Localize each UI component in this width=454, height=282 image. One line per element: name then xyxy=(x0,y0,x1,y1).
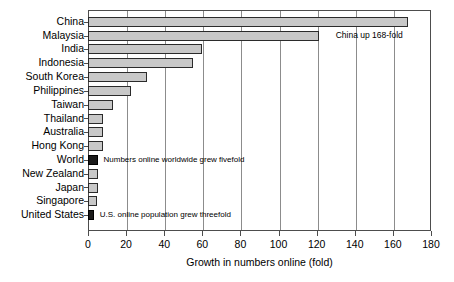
bar-row xyxy=(88,167,431,181)
category-axis-tick-label: Singapore xyxy=(0,194,84,208)
category-axis-tick-label: Indonesia xyxy=(0,56,84,70)
value-axis-tick-label: 0 xyxy=(85,237,91,251)
value-axis-tick-label: 80 xyxy=(235,237,247,251)
category-axis-tick-label: Thailand xyxy=(0,112,84,126)
value-axis-tick xyxy=(240,231,241,236)
category-axis-tick-label: South Korea xyxy=(0,70,84,84)
category-axis-tick-label: Japan xyxy=(0,181,84,195)
value-axis-tick xyxy=(126,231,127,236)
annotation-united-states: U.S. online population grew threefold xyxy=(100,210,231,220)
bar xyxy=(88,155,98,165)
value-axis-tick-label: 180 xyxy=(422,237,440,251)
bar xyxy=(88,31,319,41)
category-axis-tick-label: United States xyxy=(0,208,84,222)
value-axis-tick-label: 140 xyxy=(346,237,364,251)
category-axis-tick-label: World xyxy=(0,153,84,167)
bars-container xyxy=(88,10,431,231)
category-axis-tick-label: India xyxy=(0,42,84,56)
value-axis-tick xyxy=(202,231,203,236)
annotation-china: China up 168-fold xyxy=(336,30,403,40)
bar xyxy=(88,44,202,54)
bar-row xyxy=(88,42,431,56)
x-axis-title: Growth in numbers online (fold) xyxy=(88,255,431,269)
bar-row xyxy=(88,15,431,29)
bar-row xyxy=(88,112,431,126)
bar xyxy=(88,17,408,27)
bar-row xyxy=(88,56,431,70)
category-axis-tick-label: New Zealand xyxy=(0,167,84,181)
value-axis-tick-label: 100 xyxy=(270,237,288,251)
value-axis-tick-label: 40 xyxy=(158,237,170,251)
bar-row xyxy=(88,125,431,139)
category-axis-tick-label: Australia xyxy=(0,125,84,139)
bar-row xyxy=(88,139,431,153)
bar xyxy=(88,183,98,193)
bar xyxy=(88,72,147,82)
category-axis-tick-label: Taiwan xyxy=(0,98,84,112)
value-axis-labels: 020406080100120140160180 xyxy=(88,237,431,253)
value-axis-tick-label: 120 xyxy=(308,237,326,251)
bar xyxy=(88,86,131,96)
bar xyxy=(88,169,98,179)
value-axis-tick xyxy=(355,231,356,236)
value-axis-tick xyxy=(164,231,165,236)
value-axis-tick xyxy=(393,231,394,236)
bar xyxy=(88,100,113,110)
bar xyxy=(88,210,94,220)
bar-chart: ChinaMalaysiaIndiaIndonesiaSouth KoreaPh… xyxy=(0,0,454,282)
value-axis-tick xyxy=(317,231,318,236)
bar-row xyxy=(88,98,431,112)
value-axis-tick-label: 60 xyxy=(196,237,208,251)
category-axis-tick-label: China xyxy=(0,15,84,29)
category-axis-tick-label: Malaysia xyxy=(0,29,84,43)
bar xyxy=(88,127,103,137)
value-axis-tick-label: 20 xyxy=(120,237,132,251)
value-axis-tick xyxy=(279,231,280,236)
bar-row xyxy=(88,84,431,98)
bar xyxy=(88,58,193,68)
annotation-world: Numbers online worldwide grew fivefold xyxy=(104,155,245,165)
category-axis-tick-label: Philippines xyxy=(0,84,84,98)
category-axis-labels: ChinaMalaysiaIndiaIndonesiaSouth KoreaPh… xyxy=(0,10,84,231)
value-axis-tick-label: 160 xyxy=(384,237,402,251)
category-axis-tick-label: Hong Kong xyxy=(0,139,84,153)
bar xyxy=(88,196,97,206)
bar xyxy=(88,141,103,151)
bar-row xyxy=(88,70,431,84)
value-axis-tick xyxy=(431,231,432,236)
bar-row xyxy=(88,194,431,208)
bar-row xyxy=(88,181,431,195)
value-axis-tick xyxy=(88,231,89,236)
bar xyxy=(88,114,103,124)
